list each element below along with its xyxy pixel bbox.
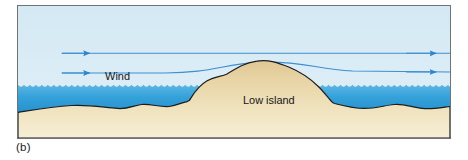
figure-caption: (b): [16, 141, 31, 153]
scene-svg: Wind Low island: [18, 6, 450, 138]
island-label: Low island: [243, 95, 295, 107]
illustration-panel: Wind Low island: [17, 5, 451, 139]
wind-label: Wind: [105, 70, 130, 82]
figure-root: Wind Low island (b): [0, 0, 468, 160]
